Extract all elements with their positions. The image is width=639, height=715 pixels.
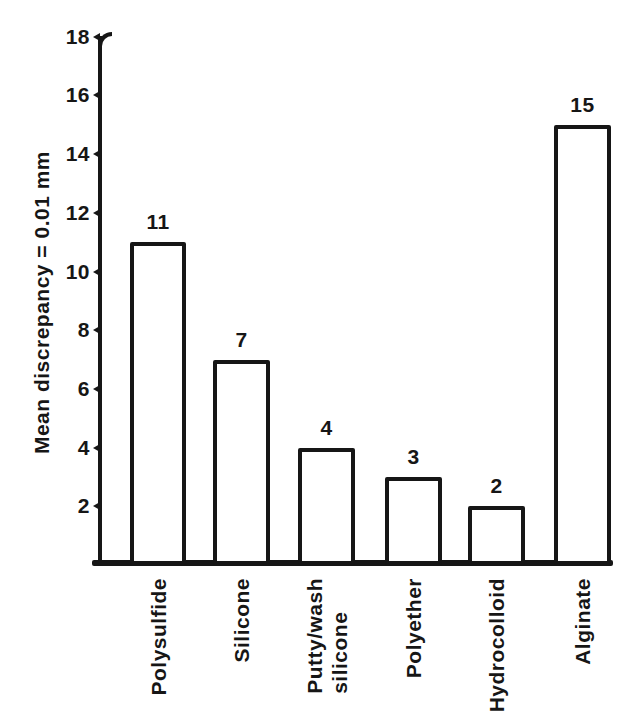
y-tick-mark (93, 150, 100, 158)
bar-silicone (213, 360, 270, 565)
bar-value-label: 11 (128, 210, 188, 234)
x-category-label-polysulfide: Polysulfide (146, 578, 171, 696)
bar-alginate (554, 125, 611, 565)
bar-value-label: 15 (553, 93, 613, 117)
bar-putty-wash (298, 448, 355, 565)
y-tick-label: 18 (0, 25, 90, 49)
y-tick-label: 2 (0, 494, 90, 518)
y-tick-mark (93, 33, 100, 41)
y-tick-mark (93, 326, 100, 334)
y-tick-mark (93, 268, 100, 276)
bar-value-label: 3 (384, 445, 444, 469)
x-category-label-putty-wash: Putty/wash silicone (302, 578, 352, 694)
y-axis-title: Mean discrepancy = 0.01 mm (29, 151, 54, 454)
bar-hydrocolloid (468, 506, 525, 565)
bar-value-label: 2 (467, 474, 527, 498)
bar-value-label: 7 (212, 328, 272, 352)
bar-value-label: 4 (297, 416, 357, 440)
bar-polysulfide (130, 242, 186, 565)
y-tick-mark (93, 444, 100, 452)
y-tick-label: 4 (0, 436, 90, 460)
bar-chart-figure: Mean discrepancy = 0.01 mm 2468101214161… (0, 0, 639, 715)
y-tick-mark (93, 91, 100, 99)
y-tick-label: 14 (0, 142, 90, 166)
bar-polyether (385, 477, 442, 565)
y-tick-mark (93, 385, 100, 393)
y-tick-label: 16 (0, 83, 90, 107)
x-category-label-alginate: Alginate (570, 578, 595, 665)
y-tick-label: 10 (0, 260, 90, 284)
y-tick-label: 8 (0, 318, 90, 342)
y-tick-mark (93, 209, 100, 217)
y-axis (98, 36, 102, 565)
y-tick-label: 12 (0, 201, 90, 225)
x-category-label-silicone: Silicone (229, 578, 254, 663)
y-tick-mark (93, 502, 100, 510)
x-category-label-hydrocolloid: Hydrocolloid (484, 578, 509, 712)
y-tick-label: 6 (0, 377, 90, 401)
x-category-label-polyether: Polyether (401, 578, 426, 678)
